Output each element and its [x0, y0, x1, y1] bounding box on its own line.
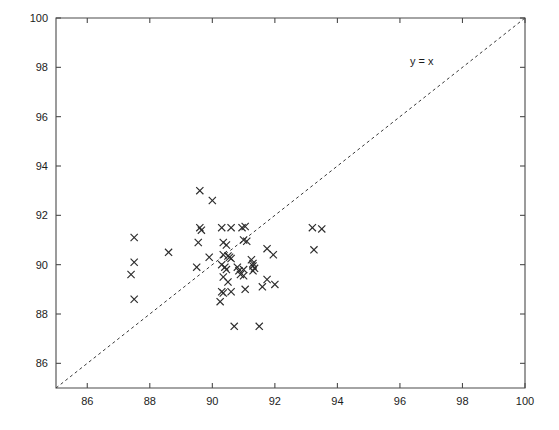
chart-canvas: 8688909294969810086889092949698100 y = x — [0, 0, 559, 430]
data-point-marker — [217, 298, 224, 305]
identity-line-label: y = x — [410, 55, 434, 67]
y-tick-label-94: 94 — [36, 160, 48, 172]
y-tick-label-88: 88 — [36, 308, 48, 320]
x-tick-label-98: 98 — [456, 395, 468, 407]
axis-tick-labels: 8688909294969810086889092949698100 — [30, 12, 535, 407]
data-point-marker — [227, 224, 234, 231]
data-point-marker — [220, 251, 227, 258]
data-point-marker — [271, 281, 278, 288]
data-point-marker — [251, 265, 258, 272]
data-point-marker — [131, 259, 138, 266]
data-point-marker — [223, 241, 230, 248]
y-tick-label-86: 86 — [36, 357, 48, 369]
axes — [56, 18, 525, 388]
chart-annotations: y = x — [410, 55, 434, 67]
data-point-marker — [227, 288, 234, 295]
scatter-plot-figure: 8688909294969810086889092949698100 y = x — [0, 0, 559, 430]
data-point-marker — [231, 323, 238, 330]
x-tick-label-90: 90 — [206, 395, 218, 407]
y-tick-label-98: 98 — [36, 61, 48, 73]
data-point-marker — [195, 239, 202, 246]
x-tick-label-88: 88 — [144, 395, 156, 407]
axis-frame — [56, 18, 525, 388]
data-point-marker — [131, 234, 138, 241]
data-point-marker — [165, 249, 172, 256]
data-point-marker — [310, 246, 317, 253]
data-point-marker — [242, 286, 249, 293]
identity-reference-line — [56, 18, 525, 388]
data-point-marker — [249, 267, 256, 274]
identity-line — [56, 18, 525, 388]
x-tick-label-96: 96 — [394, 395, 406, 407]
x-tick-label-86: 86 — [81, 395, 93, 407]
data-point-marker — [223, 266, 230, 273]
data-point-marker — [193, 264, 200, 271]
x-tick-label-100: 100 — [516, 395, 534, 407]
data-point-marker — [206, 254, 213, 261]
data-point-marker — [224, 278, 231, 285]
data-point-marker — [131, 296, 138, 303]
y-tick-label-92: 92 — [36, 209, 48, 221]
data-point-marker — [259, 283, 266, 290]
data-point-marker — [196, 187, 203, 194]
y-tick-label-90: 90 — [36, 259, 48, 271]
data-point-marker — [198, 227, 205, 234]
data-point-marker — [221, 264, 228, 271]
data-point-marker — [309, 224, 316, 231]
data-point-marker — [263, 245, 270, 252]
data-point-marker — [263, 276, 270, 283]
data-point-marker — [270, 251, 277, 258]
x-tick-label-94: 94 — [331, 395, 343, 407]
data-point-marker — [209, 197, 216, 204]
axis-ticks — [56, 18, 525, 388]
y-tick-label-96: 96 — [36, 111, 48, 123]
y-tick-label-100: 100 — [30, 12, 48, 24]
data-point-marker — [318, 225, 325, 232]
data-point-marker — [256, 323, 263, 330]
data-point-marker — [127, 271, 134, 278]
data-point-marker — [218, 224, 225, 231]
x-tick-label-92: 92 — [269, 395, 281, 407]
data-point-marker — [196, 224, 203, 231]
